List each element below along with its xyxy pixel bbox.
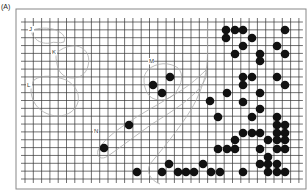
region-outline-k (56, 46, 89, 78)
occupied-dot (281, 168, 290, 177)
occupied-dot (256, 160, 265, 169)
occupied-dot (273, 136, 282, 145)
occupied-dot (223, 89, 232, 98)
region-label-j: J (29, 26, 32, 32)
occupied-dot (273, 42, 282, 51)
region-label-k: K (52, 49, 56, 55)
occupied-dot (199, 160, 208, 169)
occupied-dot (158, 168, 167, 177)
occupied-dot (239, 168, 248, 177)
occupied-dot (281, 26, 290, 35)
occupied-dot (133, 168, 142, 177)
occupied-dot (239, 98, 248, 107)
region-outline-l (31, 76, 78, 116)
grid-figure: JKLMN (0, 0, 308, 195)
occupied-dot (256, 105, 265, 114)
occupied-dot (256, 129, 265, 138)
occupied-dot (273, 145, 282, 154)
occupied-dot (231, 50, 240, 59)
occupied-dot (239, 73, 248, 82)
occupied-dot (223, 145, 232, 154)
occupied-dot (165, 160, 174, 169)
occupied-dot (239, 129, 248, 138)
occupied-dot (256, 89, 265, 98)
occupied-dot (222, 26, 231, 35)
occupied-dot (231, 136, 240, 145)
occupied-dot (100, 144, 109, 153)
occupied-dot (166, 73, 175, 82)
grid-lines (21, 18, 303, 183)
occupied-dot (182, 168, 191, 177)
occupied-dot (207, 168, 216, 177)
occupied-dot (239, 81, 248, 90)
occupied-dot (216, 168, 225, 177)
occupied-dot (273, 168, 282, 177)
occupied-dot (231, 26, 240, 35)
occupied-dot (206, 97, 215, 106)
occupied-dot (248, 113, 257, 122)
occupied-dot (264, 136, 273, 145)
occupied-dot (125, 121, 134, 130)
occupied-dot (281, 81, 290, 90)
occupied-dot (273, 160, 282, 169)
occupied-dot (214, 145, 223, 154)
occupied-dot (158, 89, 167, 98)
occupied-dot (239, 26, 248, 35)
occupied-dot (214, 113, 223, 122)
occupied-dot (273, 121, 282, 130)
region-label-m: M (149, 58, 154, 64)
occupied-dot (281, 136, 290, 145)
occupied-dot (248, 129, 257, 138)
occupied-dot (248, 34, 257, 43)
occupied-dot (256, 57, 265, 66)
occupied-dot (281, 145, 290, 154)
occupied-dot (222, 34, 231, 43)
occupied-dot (174, 168, 183, 177)
occupied-dot (264, 160, 273, 169)
region-outline-j (32, 28, 65, 43)
occupied-dot (273, 113, 282, 122)
occupied-dot (149, 81, 158, 90)
occupied-dot (239, 42, 248, 51)
occupied-cells (100, 26, 290, 177)
occupied-dot (256, 145, 265, 154)
occupied-dot (281, 121, 290, 130)
occupied-dot (248, 73, 257, 82)
occupied-dot (264, 168, 273, 177)
occupied-dot (231, 145, 240, 154)
region-label-n: N (94, 128, 98, 134)
occupied-dot (281, 50, 290, 59)
occupied-dot (190, 168, 199, 177)
occupied-dot (273, 73, 282, 82)
